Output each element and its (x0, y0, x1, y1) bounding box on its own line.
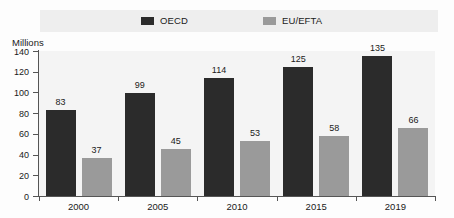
legend-swatch-eu-efta (263, 17, 276, 25)
bar-oecd-2010: 114 (204, 78, 234, 196)
x-axis-label-2015: 2015 (306, 201, 327, 212)
bar-value-label: 99 (135, 80, 145, 90)
bar-chart: OECD EU/EFTA Millions 833799451145312558… (0, 0, 454, 218)
y-axis-tick: 20 (33, 175, 38, 176)
y-axis-tick: 60 (33, 134, 38, 135)
legend-background-band (40, 10, 438, 32)
bar-value-label: 114 (212, 65, 226, 75)
y-axis-tick-label: 140 (14, 47, 29, 57)
legend-item-eu-efta: EU/EFTA (263, 10, 322, 32)
x-axis-label-2000: 2000 (68, 201, 89, 212)
legend-item-oecd: OECD (141, 10, 188, 32)
plot-area: 83379945114531255813566 (39, 51, 435, 196)
x-axis-label-2019: 2019 (385, 201, 406, 212)
bar-value-label: 125 (291, 54, 306, 64)
x-axis-tick (356, 197, 357, 201)
x-axis-label-2010: 2010 (226, 201, 247, 212)
y-axis-tick-label: 40 (19, 150, 29, 160)
bar-value-label: 66 (408, 115, 418, 125)
bar-eu-efta-2005: 45 (161, 149, 191, 196)
y-axis-tick-label: 100 (14, 88, 29, 98)
bar-value-label: 45 (171, 136, 181, 146)
bar-oecd-2019: 135 (362, 56, 392, 196)
x-axis-tick (197, 197, 198, 201)
y-axis-tick: 140 (33, 51, 38, 52)
x-axis-line (38, 196, 436, 197)
y-axis-tick-label: 20 (19, 171, 29, 181)
bar-value-label: 53 (250, 128, 260, 138)
y-axis-tick: 0 (33, 196, 38, 197)
y-axis-tick-label: 80 (19, 109, 29, 119)
y-axis-tick-label: 120 (14, 67, 29, 77)
y-axis-line (38, 50, 39, 197)
bar-oecd-2015: 125 (283, 67, 313, 196)
bar-eu-efta-2010: 53 (240, 141, 270, 196)
y-axis-tick-label: 60 (19, 129, 29, 139)
bar-eu-efta-2000: 37 (82, 158, 112, 196)
x-axis-tick (118, 197, 119, 201)
x-axis-tick (39, 197, 40, 201)
y-axis-tick: 100 (33, 92, 38, 93)
x-axis-tick (277, 197, 278, 201)
y-axis-tick: 120 (33, 72, 38, 73)
bar-oecd-2000: 83 (46, 110, 76, 196)
x-axis-tick (435, 197, 436, 201)
legend-swatch-oecd (141, 17, 154, 25)
bar-oecd-2005: 99 (125, 93, 155, 196)
y-axis-tick: 40 (33, 155, 38, 156)
y-axis-tick: 80 (33, 113, 38, 114)
bar-value-label: 58 (329, 123, 339, 133)
bar-value-label: 135 (370, 43, 385, 53)
x-axis-label-2005: 2005 (147, 201, 168, 212)
bar-value-label: 83 (56, 97, 66, 107)
y-axis-tick-label: 0 (24, 192, 29, 202)
bar-eu-efta-2019: 66 (398, 128, 428, 196)
bar-eu-efta-2015: 58 (319, 136, 349, 196)
bar-value-label: 37 (92, 145, 102, 155)
legend-label-eu-efta: EU/EFTA (282, 16, 322, 26)
legend-label-oecd: OECD (160, 16, 188, 26)
